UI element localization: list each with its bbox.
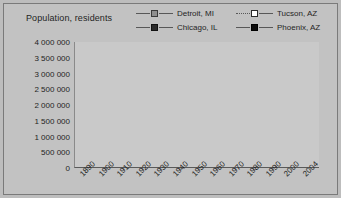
y-tick-label: 500 000 [41,148,70,157]
y-axis-tick-labels: 4 000 0003 500 0003 000 0002 500 0002 00… [4,37,70,173]
legend-marker-square-icon [251,24,258,31]
legend-marker-square-icon [151,24,158,31]
legend-line-icon [259,27,273,28]
legend-item-chicago[interactable]: Chicago, IL [136,23,217,32]
legend-label-tucson: Tucson, AZ [277,9,317,18]
y-tick-label: 2 000 000 [34,101,70,110]
y-tick-label: 2 500 000 [34,85,70,94]
x-axis-tick-labels: 1890190019101920193019401950196019701980… [74,170,324,198]
legend-line-icon [259,13,273,14]
legend-line-icon [236,13,250,14]
legend-line-icon [136,13,150,14]
chart-frame: Population, residents Detroit, MI Chicag… [3,3,338,195]
plot-area [74,42,319,168]
legend-label-phoenix: Phoenix, AZ [277,23,320,32]
y-tick-label: 4 000 000 [34,38,70,47]
legend-line-icon [236,27,250,28]
legend-marker-square-icon [151,10,158,17]
legend-line-icon [136,27,150,28]
legend-line-icon [159,27,173,28]
legend-line-icon [159,13,173,14]
legend-item-tucson[interactable]: Tucson, AZ [236,9,317,18]
legend-label-detroit: Detroit, MI [177,9,214,18]
y-tick-label: 1 500 000 [34,116,70,125]
legend-item-phoenix[interactable]: Phoenix, AZ [236,23,320,32]
legend-marker-square-icon [251,10,258,17]
y-tick-label: 3 000 000 [34,69,70,78]
legend-item-detroit[interactable]: Detroit, MI [136,9,214,18]
legend-label-chicago: Chicago, IL [177,23,217,32]
y-axis-title: Population, residents [26,13,112,23]
chart-screenshot: Population, residents Detroit, MI Chicag… [0,0,341,198]
chart-legend: Detroit, MI Chicago, IL Tucson, AZ Phoen… [136,9,341,37]
y-tick-label: 1 000 000 [34,132,70,141]
plot-background [74,42,319,168]
y-tick-label: 3 500 000 [34,53,70,62]
y-tick-label: 0 [66,164,70,173]
